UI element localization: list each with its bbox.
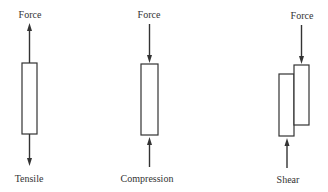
arrow-up-icon: [285, 138, 290, 146]
compression-force-label: Force: [138, 9, 161, 20]
tensile-force-label: Force: [19, 9, 42, 20]
tensile-label: Tensile: [15, 173, 44, 184]
arrow-down-icon: [27, 158, 32, 166]
tensile-bar: [22, 63, 37, 134]
compression-label: Compression: [121, 173, 174, 184]
shear-left-block: [279, 74, 294, 136]
shear-label: Shear: [277, 174, 300, 185]
compression-bar: [141, 64, 158, 135]
shear-panel: Force Shear: [277, 10, 314, 185]
shear-right-block: [294, 65, 309, 125]
tensile-panel: Force Tensile: [15, 9, 44, 184]
stress-types-diagram: Force Tensile Force Compression Force Sh…: [0, 0, 328, 192]
shear-force-label: Force: [291, 10, 314, 21]
arrow-up-icon: [27, 23, 32, 31]
arrow-up-icon: [147, 137, 152, 145]
arrow-down-icon: [147, 55, 152, 63]
arrow-down-icon: [299, 56, 304, 64]
compression-panel: Force Compression: [121, 9, 174, 184]
